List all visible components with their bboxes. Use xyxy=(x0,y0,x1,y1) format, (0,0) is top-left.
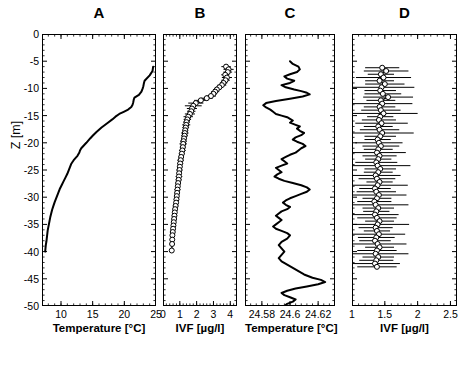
y-tick-label: -15 xyxy=(24,110,39,122)
x-tick-label: 4 xyxy=(227,308,233,320)
panel-c-title: C xyxy=(245,4,335,21)
x-tick-label: 0 xyxy=(160,308,166,320)
x-tick-label: 24.6 xyxy=(280,308,300,320)
panel-b-title: B xyxy=(163,4,237,21)
x-tick-label: 2 xyxy=(194,308,200,320)
panel-a-plot xyxy=(42,34,156,306)
y-tick-label: -10 xyxy=(24,82,39,94)
y-tick-label: -45 xyxy=(24,273,39,285)
panel-a-x-tick-labels: 10152025 xyxy=(42,308,156,322)
y-tick-label: -25 xyxy=(24,164,39,176)
panel-c-plot xyxy=(245,34,335,306)
x-tick-label: 1 xyxy=(349,308,355,320)
y-tick-label: -30 xyxy=(24,191,39,203)
panel-a-x-axis-label: Temperature [°C] xyxy=(42,322,156,334)
data-point-markers xyxy=(372,65,391,269)
figure-container: Z [m] 0-5-10-15-20-25-30-35-40-45-50 A 1… xyxy=(0,0,463,373)
y-tick-label: -40 xyxy=(24,246,39,258)
x-tick-label: 20 xyxy=(118,308,130,320)
y-tick-label: -50 xyxy=(24,300,39,312)
panel-b: B 01234 IVF [µg/l] xyxy=(163,34,237,306)
panel-c-x-tick-labels: 24.5824.624.62 xyxy=(245,308,335,322)
x-tick-label: 1 xyxy=(177,308,183,320)
panel-d-x-axis-label: IVF [µg/l] xyxy=(352,322,457,334)
panel-c: C 24.5824.624.62 Temperature [°C] xyxy=(245,34,335,306)
panel-c-x-axis-label: Temperature [°C] xyxy=(245,322,335,334)
x-tick-label: 10 xyxy=(55,308,67,320)
panel-d: D 11.522.5 IVF [µg/l] xyxy=(352,34,457,306)
panel-b-plot xyxy=(163,34,237,306)
panel-d-x-tick-labels: 11.522.5 xyxy=(352,308,457,322)
y-tick-label: 0 xyxy=(33,28,39,40)
x-tick-label: 3 xyxy=(211,308,217,320)
x-tick-label: 2 xyxy=(415,308,421,320)
x-tick-label: 24.58 xyxy=(249,308,275,320)
panel-b-x-tick-labels: 01234 xyxy=(163,308,237,322)
panel-a-title: A xyxy=(42,4,156,21)
x-tick-label: 2.5 xyxy=(443,308,458,320)
y-tick-label: -5 xyxy=(30,55,39,67)
y-tick-label: -35 xyxy=(24,218,39,230)
data-series-line xyxy=(45,67,153,252)
x-tick-label: 15 xyxy=(87,308,99,320)
y-tick-label: -20 xyxy=(24,137,39,149)
error-bars xyxy=(352,68,418,267)
y-axis-tick-labels: 0-5-10-15-20-25-30-35-40-45-50 xyxy=(0,34,42,306)
panel-d-title: D xyxy=(352,4,457,21)
panel-d-plot xyxy=(352,34,457,306)
x-tick-label: 1.5 xyxy=(378,308,393,320)
panel-b-x-axis-label: IVF [µg/l] xyxy=(163,322,237,334)
panel-a: A 10152025 Temperature [°C] xyxy=(42,34,156,306)
x-tick-label: 24.62 xyxy=(305,308,331,320)
data-series-line xyxy=(263,61,325,306)
data-point-markers xyxy=(169,64,231,253)
